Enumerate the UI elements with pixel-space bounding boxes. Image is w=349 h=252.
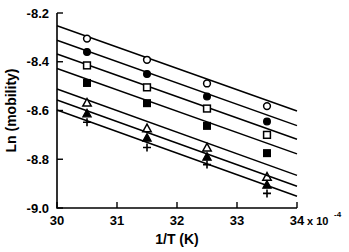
chart-figure: -9.0-8.8-8.6-8.4-8.230313233341/T (K)Ln … [0, 0, 349, 252]
x-tick-label: 31 [110, 213, 124, 228]
x-axis-title: 1/T (K) [155, 231, 199, 247]
trend-line-filled-square [57, 69, 297, 154]
x-tick-label: 30 [50, 213, 64, 228]
series-group-7 [57, 110, 297, 197]
trend-line-plus [57, 110, 297, 196]
x-tick-label: 32 [170, 213, 184, 228]
trend-line-open-triangle [57, 89, 297, 175]
y-tick-label: -8.8 [27, 152, 49, 167]
markers-open-circle [84, 35, 271, 109]
trend-line-open-square [57, 54, 297, 139]
y-tick-label: -8.6 [27, 103, 49, 118]
y-tick-label: -8.4 [27, 54, 50, 69]
trend-line-open-circle [57, 26, 297, 111]
x-axis-multiplier: x 10 [307, 215, 328, 227]
series-group-3 [57, 54, 297, 139]
y-tick-label: -8.2 [27, 6, 49, 21]
x-tick-label: 34 [290, 213, 305, 228]
x-tick-label: 33 [230, 213, 244, 228]
arrhenius-plot-svg: -9.0-8.8-8.6-8.4-8.230313233341/T (K)Ln … [0, 0, 349, 252]
series-group-5 [57, 89, 297, 180]
y-tick-label: -9.0 [27, 201, 49, 216]
y-axis-title: Ln (mobility) [3, 69, 19, 153]
series-group-1 [57, 26, 297, 111]
x-axis-multiplier-exponent: -4 [334, 210, 342, 219]
